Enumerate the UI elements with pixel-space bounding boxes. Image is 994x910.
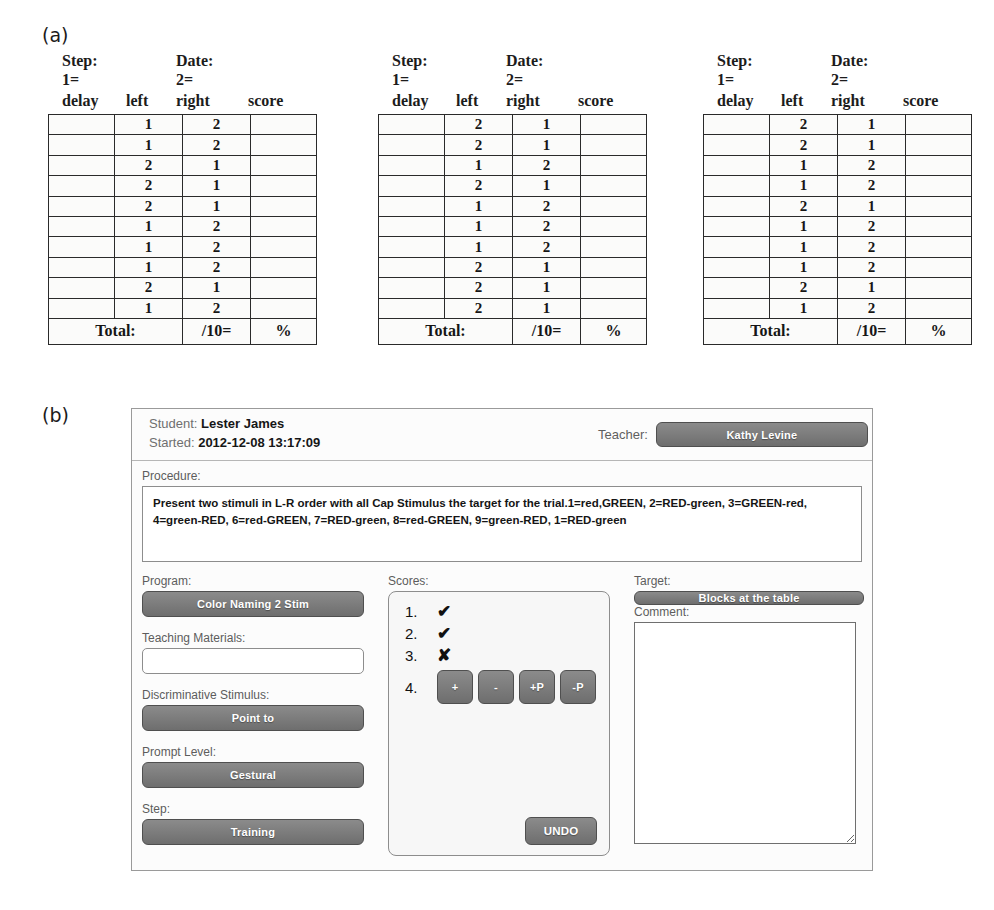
cell-score bbox=[906, 257, 972, 277]
cell-delay bbox=[49, 176, 115, 196]
cell-score bbox=[906, 216, 972, 236]
score-button-plus[interactable]: + bbox=[437, 670, 473, 704]
cell-score bbox=[581, 155, 647, 175]
cell-right: 1 bbox=[838, 135, 906, 155]
active-score-number: 4. bbox=[405, 679, 437, 696]
score-button-plusP[interactable]: +P bbox=[519, 670, 555, 704]
cell-score bbox=[251, 115, 317, 135]
teaching-materials-input[interactable] bbox=[142, 648, 364, 674]
scores-panel: 1.✔2.✔3.✘ 4. +-+P-P UNDO bbox=[388, 591, 610, 856]
trial-row: 12 bbox=[704, 257, 972, 277]
trial-row: 21 bbox=[379, 298, 647, 318]
cell-right: 2 bbox=[183, 237, 251, 257]
cell-delay bbox=[379, 278, 445, 298]
comment-textarea[interactable] bbox=[634, 622, 856, 844]
cell-right: 2 bbox=[838, 237, 906, 257]
cell-delay bbox=[704, 196, 770, 216]
step-select-button[interactable]: Training bbox=[142, 819, 364, 845]
cell-left: 1 bbox=[445, 216, 513, 236]
cell-score bbox=[251, 216, 317, 236]
cell-right: 1 bbox=[513, 298, 581, 318]
undo-button[interactable]: UNDO bbox=[525, 817, 597, 845]
cell-left: 2 bbox=[115, 155, 183, 175]
column-header-score: score bbox=[578, 92, 613, 110]
trial-table: 12122121211212122112Total:/10=% bbox=[48, 114, 317, 345]
score-button-group: +-+P-P bbox=[437, 670, 601, 704]
prompt-level-label: Prompt Level: bbox=[142, 745, 372, 759]
cell-score bbox=[251, 155, 317, 175]
cell-score bbox=[906, 155, 972, 175]
cell-score bbox=[906, 115, 972, 135]
cell-left: 1 bbox=[445, 155, 513, 175]
cell-delay bbox=[379, 135, 445, 155]
cell-left: 2 bbox=[770, 278, 838, 298]
total-row: Total:/10=% bbox=[379, 318, 647, 344]
datasheet-2-header: Step: 1= Date: 2= delay left right score bbox=[378, 52, 646, 114]
cell-right: 1 bbox=[513, 115, 581, 135]
cell-delay bbox=[704, 237, 770, 257]
cell-score bbox=[581, 135, 647, 155]
data-collection-app-window: Student: Lester James Started: 2012-12-0… bbox=[131, 408, 873, 871]
program-select-button[interactable]: Color Naming 2 Stim bbox=[142, 591, 364, 617]
total-label: Total: bbox=[704, 318, 838, 344]
score-entry: 3.✘ bbox=[389, 644, 609, 666]
trial-row: 12 bbox=[704, 216, 972, 236]
cell-delay bbox=[379, 115, 445, 135]
trial-row: 21 bbox=[704, 115, 972, 135]
score-entry: 2.✔ bbox=[389, 622, 609, 644]
cell-right: 2 bbox=[513, 216, 581, 236]
trial-row: 21 bbox=[49, 196, 317, 216]
cell-delay bbox=[379, 237, 445, 257]
cell-left: 2 bbox=[445, 298, 513, 318]
column-header-left: left bbox=[456, 92, 478, 110]
trial-row: 21 bbox=[704, 135, 972, 155]
trial-row: 12 bbox=[379, 216, 647, 236]
trial-table: 21211221121212212121Total:/10=% bbox=[378, 114, 647, 345]
cell-score bbox=[906, 196, 972, 216]
started-line: Started: 2012-12-08 13:17:09 bbox=[149, 435, 320, 450]
step-label: Step: bbox=[392, 52, 428, 70]
teacher-label: Teacher: bbox=[598, 427, 648, 442]
score-button-minusP[interactable]: -P bbox=[560, 670, 596, 704]
step-value: 1= bbox=[392, 71, 409, 89]
active-score-row: 4. +-+P-P bbox=[389, 670, 609, 704]
score-button-minus[interactable]: - bbox=[478, 670, 514, 704]
cell-score bbox=[906, 278, 972, 298]
trial-row: 12 bbox=[379, 155, 647, 175]
student-name: Lester James bbox=[201, 416, 284, 431]
score-entry-number: 2. bbox=[405, 625, 437, 642]
trial-row: 12 bbox=[49, 115, 317, 135]
target-select-button[interactable]: Blocks at the table bbox=[634, 591, 864, 605]
date-label: Date: bbox=[506, 52, 543, 70]
cell-left: 1 bbox=[770, 176, 838, 196]
procedure-label: Procedure: bbox=[142, 469, 862, 483]
trial-row: 21 bbox=[704, 278, 972, 298]
total-denominator: /10= bbox=[513, 318, 581, 344]
discriminative-stimulus-select-button[interactable]: Point to bbox=[142, 705, 364, 731]
program-label: Program: bbox=[142, 574, 372, 588]
cell-left: 2 bbox=[445, 257, 513, 277]
cell-right: 2 bbox=[183, 257, 251, 277]
datasheet-2: Step: 1= Date: 2= delay left right score… bbox=[378, 52, 646, 345]
date-label: Date: bbox=[176, 52, 213, 70]
cell-delay bbox=[704, 155, 770, 175]
cell-delay bbox=[379, 216, 445, 236]
cell-right: 1 bbox=[513, 135, 581, 155]
cell-right: 1 bbox=[183, 176, 251, 196]
trial-row: 12 bbox=[49, 216, 317, 236]
cell-score bbox=[251, 257, 317, 277]
prompt-level-select-button[interactable]: Gestural bbox=[142, 762, 364, 788]
cell-score bbox=[581, 278, 647, 298]
teacher-select-button[interactable]: Kathy Levine bbox=[656, 422, 868, 447]
started-timestamp: 2012-12-08 13:17:09 bbox=[198, 435, 320, 450]
trial-row: 12 bbox=[379, 196, 647, 216]
cell-delay bbox=[379, 155, 445, 175]
cell-left: 1 bbox=[115, 115, 183, 135]
trial-row: 21 bbox=[379, 176, 647, 196]
score-entry-number: 1. bbox=[405, 603, 437, 620]
column-header-right: right bbox=[506, 92, 540, 110]
cell-score bbox=[906, 237, 972, 257]
trial-row: 12 bbox=[704, 176, 972, 196]
cell-score bbox=[251, 237, 317, 257]
cell-delay bbox=[704, 257, 770, 277]
